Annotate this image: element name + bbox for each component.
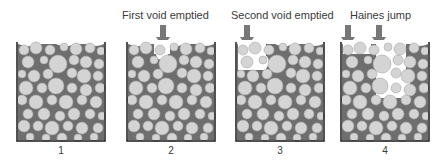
panel-1 [16, 40, 106, 142]
panel-label-2: 2 [161, 145, 181, 156]
panel-label-3: 3 [270, 145, 290, 156]
caption-haines-jump: Haines jump [350, 9, 411, 21]
panel-2 [126, 40, 216, 142]
caption-first-void: First void emptied [122, 9, 209, 21]
caption-second-void: Second void emptied [231, 9, 334, 21]
panel-label-4: 4 [375, 145, 395, 156]
panel-4 [340, 40, 430, 142]
panel-3 [235, 40, 325, 142]
panel-label-1: 1 [51, 145, 71, 156]
